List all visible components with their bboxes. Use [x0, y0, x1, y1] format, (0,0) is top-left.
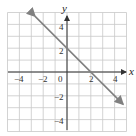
y-tick-neg2: −2	[54, 92, 64, 102]
x-tick-neg2: −2	[38, 74, 48, 84]
y-tick-4: 4	[59, 22, 64, 32]
x-tick-4: 4	[113, 74, 118, 84]
x-tick-neg4: −4	[14, 74, 24, 84]
x-axis-label: x	[128, 65, 134, 77]
y-tick-2: 2	[59, 46, 64, 56]
y-axis-label: y	[61, 2, 67, 14]
x-tick-2: 2	[89, 74, 94, 84]
y-tick-neg4: −4	[54, 116, 64, 126]
origin-label: 0	[58, 74, 63, 84]
coordinate-plane: x y −4 −2 0 2 4 4 2 −2 −4	[0, 0, 136, 136]
